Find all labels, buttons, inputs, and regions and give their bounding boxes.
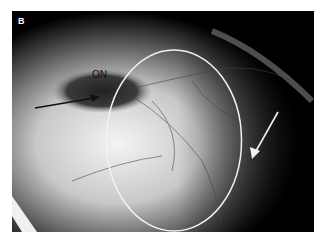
fundus-illustration bbox=[12, 11, 314, 232]
panel-label: B bbox=[18, 16, 25, 26]
optic-nerve-label: ON bbox=[92, 69, 107, 80]
fundus-image: B ON bbox=[12, 11, 314, 232]
